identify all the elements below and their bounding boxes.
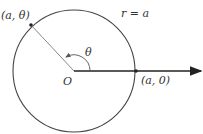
radius-line	[31, 25, 74, 71]
curve-label: r = a	[121, 7, 149, 20]
angle-label: θ	[85, 46, 92, 59]
point-theta-label: (a, θ)	[1, 9, 30, 22]
point-zero-dot	[134, 69, 138, 73]
point-zero-label: (a, 0)	[141, 74, 170, 87]
polar-circle-diagram: (a, θ) r = a θ O (a, 0)	[0, 0, 203, 134]
origin-label: O	[63, 75, 72, 88]
point-theta-dot	[29, 23, 33, 27]
